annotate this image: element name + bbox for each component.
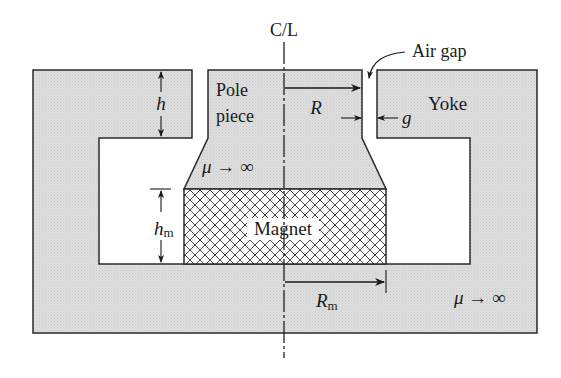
yoke-permeability-label: μ → ∞ bbox=[453, 287, 506, 308]
r-label: R bbox=[309, 97, 322, 118]
g-label: g bbox=[402, 107, 412, 128]
air-gap-label: Air gap bbox=[412, 41, 466, 61]
centerline-label: C/L bbox=[270, 20, 298, 40]
h-label: h bbox=[156, 93, 166, 114]
yoke-label: Yoke bbox=[428, 93, 467, 114]
diagram-canvas: Magnet C/L h hm R g Air gap Pole piece Y… bbox=[0, 0, 561, 378]
pole-piece-label-line1: Pole bbox=[216, 80, 248, 100]
hm-label: hm bbox=[154, 218, 174, 240]
pole-piece-label-line2: piece bbox=[216, 106, 254, 126]
pole-permeability-label: μ → ∞ bbox=[201, 156, 254, 177]
